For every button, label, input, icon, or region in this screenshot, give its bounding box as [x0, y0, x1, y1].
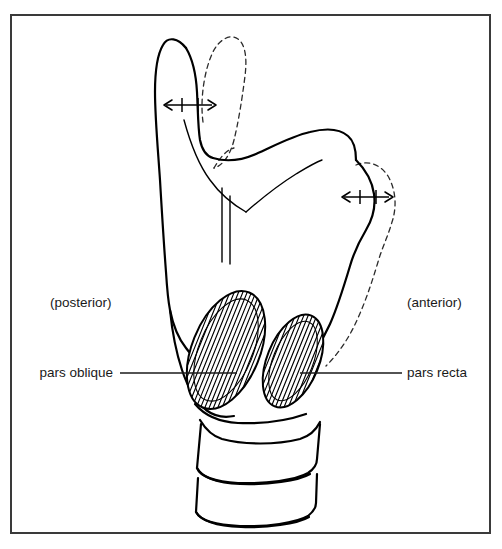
- thyroid-superior-border: [213, 130, 356, 160]
- label-anterior: (anterior): [407, 295, 462, 310]
- tracheal-ring-2-lower-edge: [196, 512, 309, 527]
- label-pars-oblique: pars oblique: [39, 365, 113, 380]
- tracheal-ring-2: [196, 474, 317, 526]
- figure-root: (posterior) (anterior) pars oblique pars…: [0, 0, 502, 549]
- superior-cornu-excursion-arrow: [164, 98, 216, 112]
- label-posterior: (posterior): [50, 295, 112, 310]
- tracheal-ring-1-lower-edge: [197, 468, 310, 484]
- larynx-diagram-canvas: (posterior) (anterior) pars oblique pars…: [0, 0, 502, 549]
- thyroid-lamina-ridge-lower: [246, 160, 322, 212]
- figure-border: [11, 15, 490, 533]
- displaced-superior-cornu-icon: [202, 37, 246, 168]
- inferior-cornu-excursion-arrow: [342, 190, 393, 204]
- label-pars-recta: pars recta: [407, 365, 468, 380]
- trachea-group: [196, 420, 320, 527]
- tracheal-ring-1: [197, 424, 320, 483]
